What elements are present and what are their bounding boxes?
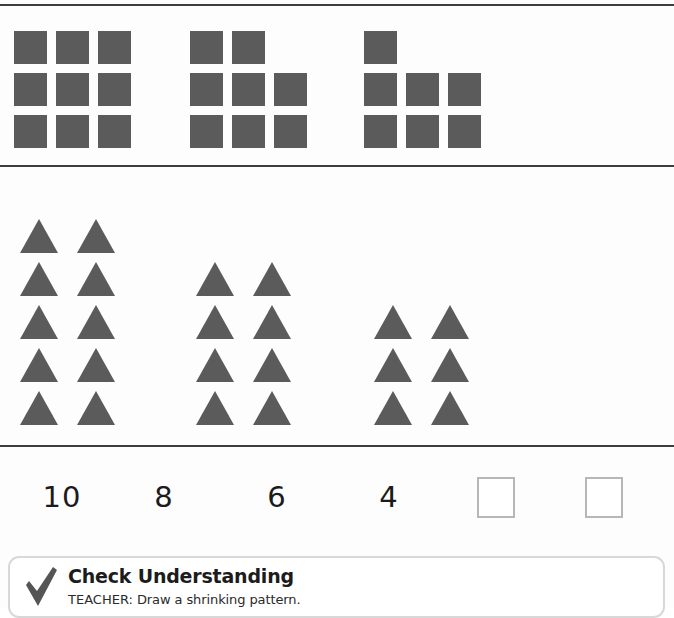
square-shape bbox=[14, 73, 47, 106]
triangle-shape bbox=[253, 391, 291, 425]
triangle-row bbox=[196, 262, 291, 296]
square-shape bbox=[232, 73, 265, 106]
square-row bbox=[190, 73, 307, 106]
triangle-shape bbox=[77, 391, 115, 425]
square-shape bbox=[56, 31, 89, 64]
triangle-shape bbox=[20, 391, 58, 425]
triangle-shape bbox=[196, 348, 234, 382]
square-group-3 bbox=[364, 31, 481, 148]
triangle-shape bbox=[77, 305, 115, 339]
square-shape bbox=[274, 73, 307, 106]
square-group-1 bbox=[14, 31, 131, 148]
answer-box-1[interactable] bbox=[477, 477, 515, 518]
check-understanding-text: Check Understanding TEACHER: Draw a shri… bbox=[68, 564, 301, 609]
square-shape bbox=[14, 31, 47, 64]
checkmark-icon bbox=[24, 566, 58, 608]
triangle-row bbox=[20, 219, 115, 253]
triangle-group-1 bbox=[20, 219, 115, 425]
triangle-shape bbox=[20, 262, 58, 296]
square-shape bbox=[56, 73, 89, 106]
square-shape bbox=[190, 73, 223, 106]
square-shape bbox=[448, 115, 481, 148]
square-shape bbox=[190, 115, 223, 148]
number-term-2: 8 bbox=[141, 473, 187, 521]
square-row bbox=[14, 115, 131, 148]
triangle-shape bbox=[20, 219, 58, 253]
number-pattern-section: 10 8 6 4 bbox=[0, 447, 674, 545]
triangle-shape bbox=[196, 305, 234, 339]
triangle-shape bbox=[196, 391, 234, 425]
square-shape bbox=[232, 115, 265, 148]
triangle-shape bbox=[253, 305, 291, 339]
square-shape bbox=[274, 115, 307, 148]
check-understanding-instruction: TEACHER: Draw a shrinking pattern. bbox=[68, 590, 301, 609]
triangle-shape bbox=[196, 262, 234, 296]
triangle-shape bbox=[77, 219, 115, 253]
check-understanding-callout: Check Understanding TEACHER: Draw a shri… bbox=[8, 556, 665, 618]
square-row bbox=[190, 31, 307, 64]
triangle-row bbox=[374, 305, 469, 339]
square-pattern-section bbox=[0, 6, 674, 165]
square-row bbox=[190, 115, 307, 148]
triangle-pattern-section bbox=[0, 167, 674, 445]
square-row bbox=[364, 31, 481, 64]
number-term-1: 10 bbox=[39, 473, 85, 521]
check-understanding-content: Check Understanding TEACHER: Draw a shri… bbox=[24, 564, 655, 609]
square-shape bbox=[14, 115, 47, 148]
triangle-group-2 bbox=[196, 262, 291, 425]
triangle-shape bbox=[20, 348, 58, 382]
triangle-row bbox=[20, 391, 115, 425]
triangle-shape bbox=[374, 348, 412, 382]
triangle-row bbox=[374, 391, 469, 425]
triangle-shape bbox=[253, 348, 291, 382]
square-row bbox=[364, 115, 481, 148]
triangle-shape bbox=[431, 391, 469, 425]
number-term-3: 6 bbox=[254, 473, 300, 521]
triangle-shape bbox=[253, 262, 291, 296]
number-term-4: 4 bbox=[366, 473, 412, 521]
triangle-row bbox=[20, 305, 115, 339]
square-shape bbox=[232, 31, 265, 64]
square-shape bbox=[98, 31, 131, 64]
triangle-shape bbox=[77, 262, 115, 296]
answer-box-2[interactable] bbox=[585, 477, 623, 518]
triangle-row bbox=[196, 348, 291, 382]
triangle-row bbox=[374, 348, 469, 382]
number-sequence-row: 10 8 6 4 bbox=[0, 473, 674, 521]
square-shape bbox=[190, 31, 223, 64]
square-shape bbox=[364, 31, 397, 64]
triangle-row bbox=[196, 391, 291, 425]
triangle-shape bbox=[431, 305, 469, 339]
teacher-label: TEACHER: bbox=[68, 592, 133, 607]
square-shape bbox=[448, 73, 481, 106]
instruction-text: Draw a shrinking pattern. bbox=[133, 592, 301, 607]
triangle-row bbox=[20, 262, 115, 296]
square-shape bbox=[364, 115, 397, 148]
triangle-shape bbox=[77, 348, 115, 382]
triangle-group-3 bbox=[374, 305, 469, 425]
square-row bbox=[14, 31, 131, 64]
square-shape bbox=[56, 115, 89, 148]
square-shape bbox=[406, 115, 439, 148]
triangle-shape bbox=[431, 348, 469, 382]
square-shape bbox=[364, 73, 397, 106]
square-row bbox=[364, 73, 481, 106]
square-row bbox=[14, 73, 131, 106]
square-shape bbox=[98, 115, 131, 148]
square-shape bbox=[406, 73, 439, 106]
triangle-row bbox=[196, 305, 291, 339]
triangle-shape bbox=[374, 305, 412, 339]
triangle-shape bbox=[20, 305, 58, 339]
check-understanding-title: Check Understanding bbox=[68, 565, 301, 588]
square-shape bbox=[98, 73, 131, 106]
triangle-row bbox=[20, 348, 115, 382]
square-group-2 bbox=[190, 31, 307, 148]
triangle-shape bbox=[374, 391, 412, 425]
